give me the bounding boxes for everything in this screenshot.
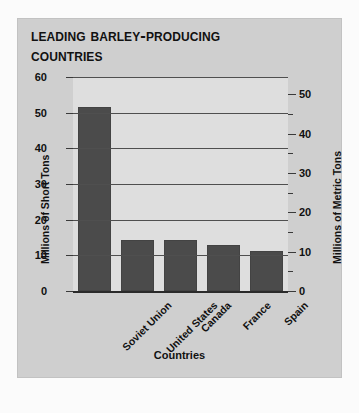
y-axis-right-tick bbox=[288, 212, 296, 213]
x-axis-category-labels: Soviet UnionUnited StatesCanadaFranceSpa… bbox=[18, 293, 341, 353]
y-axis-right-tick bbox=[288, 291, 296, 292]
gridline bbox=[73, 113, 288, 114]
y-axis-right-tick-label: 50 bbox=[299, 89, 311, 100]
gridline bbox=[73, 255, 288, 256]
gridline bbox=[73, 77, 288, 78]
bar bbox=[207, 245, 240, 291]
bar bbox=[250, 251, 283, 291]
chart-title-line-2: Countries bbox=[31, 45, 303, 65]
y-axis-left-tick bbox=[66, 255, 73, 256]
y-axis-left-tick bbox=[66, 220, 73, 221]
plot-area bbox=[73, 77, 288, 291]
y-axis-right-minor-tick bbox=[288, 193, 293, 194]
y-axis-right-tick-label: 30 bbox=[299, 168, 311, 179]
y-axis-left-title: Millions of Short Tons bbox=[39, 155, 51, 264]
y-axis-right-title: Millions of Metric Tons bbox=[331, 151, 343, 264]
y-axis-right-tick-label: 40 bbox=[299, 129, 311, 140]
chart-title: Leading Barley-Producing Countries bbox=[31, 25, 303, 65]
y-axis-right-tick-label: 20 bbox=[299, 207, 311, 218]
bar bbox=[121, 240, 154, 291]
y-axis-left-tick bbox=[66, 77, 73, 78]
gridline bbox=[73, 184, 288, 185]
y-axis-right-tick-label: 10 bbox=[299, 247, 311, 258]
bar bbox=[164, 240, 197, 291]
y-axis-right: 01020304050 bbox=[288, 77, 308, 291]
y-axis-right-tick bbox=[288, 94, 296, 95]
x-axis-category-label: Spain bbox=[281, 299, 310, 328]
y-axis-right-minor-tick bbox=[288, 153, 293, 154]
y-axis-left-tick-label: 50 bbox=[21, 108, 47, 119]
y-axis-right-minor-tick bbox=[288, 114, 293, 115]
y-axis-right-tick bbox=[288, 173, 296, 174]
y-axis-left-tick bbox=[66, 113, 73, 114]
x-axis-title: Countries bbox=[18, 349, 341, 361]
y-axis-right-minor-tick bbox=[288, 232, 293, 233]
y-axis-left-tick bbox=[66, 291, 73, 292]
gridline bbox=[73, 148, 288, 149]
y-axis-right-minor-tick bbox=[288, 271, 293, 272]
y-axis-left-tick-label: 60 bbox=[21, 72, 47, 83]
y-axis-left-tick bbox=[66, 148, 73, 149]
x-axis-category-label: France bbox=[240, 299, 273, 332]
y-axis-left-tick bbox=[66, 184, 73, 185]
y-axis-right-tick bbox=[288, 134, 296, 135]
gridline bbox=[73, 220, 288, 221]
y-axis-right-tick bbox=[288, 252, 296, 253]
chart-card: Leading Barley-Producing Countries 01020… bbox=[18, 19, 341, 377]
bar bbox=[78, 107, 111, 291]
page-root: Leading Barley-Producing Countries 01020… bbox=[0, 0, 359, 413]
y-axis-left-tick-label: 40 bbox=[21, 143, 47, 154]
y-axis-left: 0102030405060 bbox=[54, 77, 73, 291]
chart-title-line-1: Leading Barley-Producing bbox=[31, 25, 303, 45]
